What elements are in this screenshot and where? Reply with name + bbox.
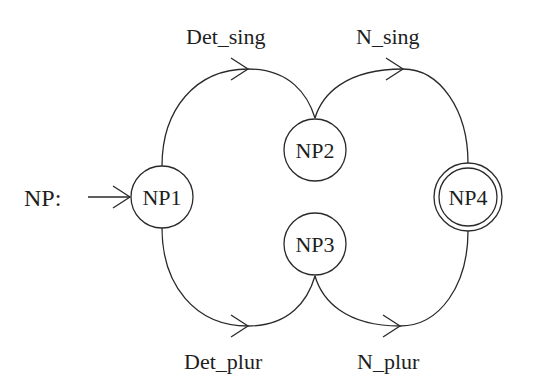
node-label-np2: NP2 xyxy=(295,138,334,163)
node-np4-final: NP4 xyxy=(434,163,502,231)
edge-label-det-sing: Det_sing xyxy=(186,24,265,49)
finite-state-network-diagram: NP: Det_sing N_sing Det_plur N_plur NP1 xyxy=(0,0,535,391)
node-label-np1: NP1 xyxy=(142,185,181,210)
node-label-np4: NP4 xyxy=(448,185,487,210)
diagram-canvas: NP: Det_sing N_sing Det_plur N_plur NP1 xyxy=(0,0,535,391)
node-np2: NP2 xyxy=(284,119,346,181)
node-np1: NP1 xyxy=(131,166,193,228)
edge-label-n-sing: N_sing xyxy=(356,24,420,49)
entry-arrow xyxy=(88,186,130,208)
edge-label-n-plur: N_plur xyxy=(357,349,420,374)
node-np3: NP3 xyxy=(284,213,346,275)
node-label-np3: NP3 xyxy=(295,232,334,257)
edge-label-det-plur: Det_plur xyxy=(184,349,263,374)
network-name-label: NP: xyxy=(24,185,61,211)
